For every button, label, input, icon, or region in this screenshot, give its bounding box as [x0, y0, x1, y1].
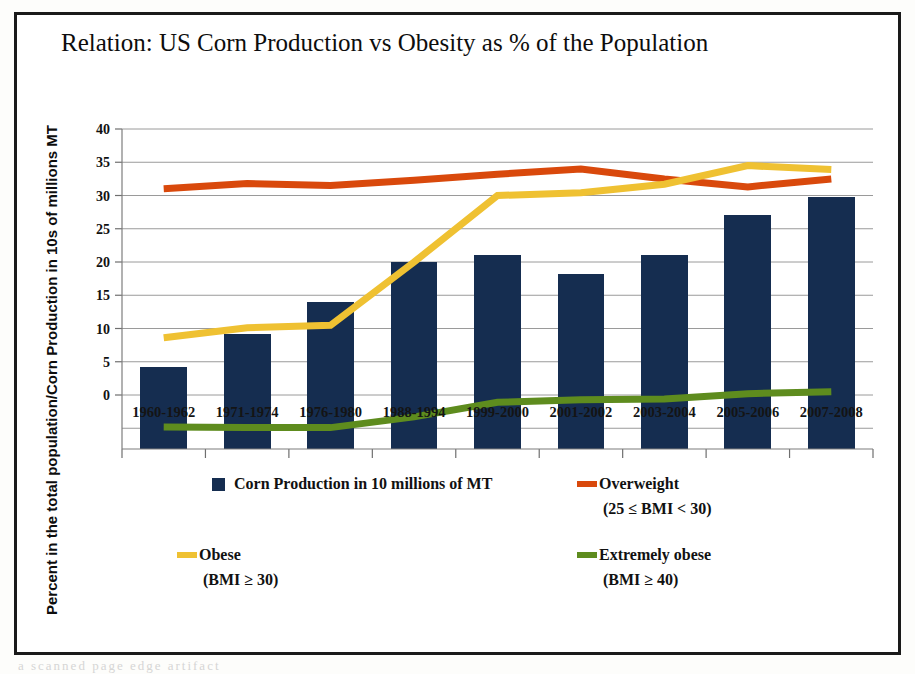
legend-sublabel: (BMI ≥ 30) [203, 571, 278, 589]
y-tick-label: 40 [96, 122, 110, 137]
legend-label: Extremely obese [599, 546, 711, 564]
y-tick-label: 35 [96, 155, 110, 170]
chart-canvas: Relation: US Corn Production vs Obesity … [17, 15, 898, 652]
legend-sublabel: (BMI ≥ 40) [603, 571, 678, 589]
page-bleed-text: a scanned page edge artifact [18, 658, 518, 674]
bar-1971-1974 [224, 334, 271, 449]
y-tick-label: 20 [96, 255, 110, 270]
y-tick-label: 10 [96, 322, 110, 337]
x-axis-label-1999-2000: 1999-2000 [466, 404, 529, 420]
y-tick-label: 15 [96, 288, 110, 303]
x-axis-label-1988-1994: 1988-1994 [383, 404, 446, 420]
x-axis-label-1976-1980: 1976-1980 [299, 404, 362, 420]
scanned-page: Relation: US Corn Production vs Obesity … [0, 0, 915, 674]
x-axis-category-labels: 1960-19621971-19741976-19801988-19941999… [132, 404, 862, 420]
legend-swatch-square [212, 478, 225, 491]
legend-item-overweight_red: Overweight(25 ≤ BMI < 30) [577, 475, 712, 518]
legend-label: Overweight [599, 475, 680, 493]
y-tick-label: 0 [103, 388, 110, 403]
x-axis-label-2003-2004: 2003-2004 [633, 404, 696, 420]
legend-item-bar_navy: Corn Production in 10 millions of MT [212, 475, 493, 492]
chart-title: Relation: US Corn Production vs Obesity … [61, 29, 709, 56]
legend-item-extremely_obese_green: Extremely obese(BMI ≥ 40) [577, 546, 711, 589]
x-axis-label-2005-2006: 2005-2006 [716, 404, 779, 420]
legend-sublabel: (25 ≤ BMI < 30) [603, 500, 712, 518]
y-axis-tick-marks [115, 129, 122, 395]
x-axis-label-2007-2008: 2007-2008 [800, 404, 863, 420]
x-axis-tick-marks [122, 449, 873, 458]
chart-legend: Corn Production in 10 millions of MTOver… [177, 475, 712, 589]
y-tick-label: 5 [103, 355, 110, 370]
legend-item-obese_yellow: Obese(BMI ≥ 30) [177, 546, 278, 589]
legend-label: Corn Production in 10 millions of MT [234, 475, 493, 492]
y-tick-label: 25 [96, 222, 110, 237]
x-axis-label-2001-2002: 2001-2002 [550, 404, 613, 420]
x-axis-label-1960-1962: 1960-1962 [132, 404, 195, 420]
x-axis-label-1971-1974: 1971-1974 [216, 404, 279, 420]
y-tick-label: 30 [96, 189, 110, 204]
legend-label: Obese [199, 546, 241, 563]
y-axis-tick-labels: 0510152025303540 [96, 122, 110, 403]
y-axis-title: Percent in the total population/Corn Pro… [43, 125, 60, 615]
bar-2001-2002 [558, 274, 605, 449]
figure-frame: Relation: US Corn Production vs Obesity … [14, 12, 901, 655]
